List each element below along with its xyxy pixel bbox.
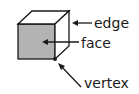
edge-label: edge: [94, 15, 129, 31]
face-label: face: [81, 35, 111, 51]
edge-arrowhead: [72, 20, 78, 26]
vertex-label: vertex: [84, 75, 129, 91]
vertex-dot: [53, 57, 57, 61]
vertex-arrow: [61, 66, 81, 87]
cube-diagram: edge face vertex: [0, 0, 139, 94]
corner-dot: [68, 10, 70, 12]
